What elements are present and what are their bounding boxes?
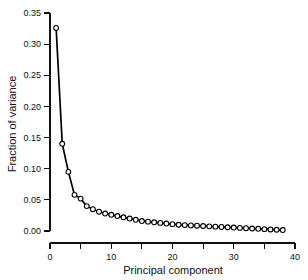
data-point-marker <box>103 211 108 216</box>
x-tick-label: 0 <box>47 252 52 262</box>
data-point-marker <box>274 227 279 232</box>
data-point-marker <box>268 227 273 232</box>
x-tick-label: 20 <box>167 252 177 262</box>
y-tick-group: 0.000.050.100.150.200.250.300.35 <box>23 8 50 236</box>
y-tick-label: 0.25 <box>23 70 41 80</box>
data-point-marker <box>127 216 132 221</box>
data-point-marker <box>121 215 126 220</box>
y-tick-label: 0.05 <box>23 195 41 205</box>
data-point-marker <box>250 226 255 231</box>
data-series-fraction-of-variance <box>54 26 285 233</box>
data-point-marker <box>280 228 285 233</box>
data-point-marker <box>170 222 175 227</box>
y-tick-label: 0.15 <box>23 133 41 143</box>
data-point-marker <box>213 224 218 229</box>
data-point-marker <box>72 192 77 197</box>
data-point-marker <box>146 219 151 224</box>
y-tick-label: 0.35 <box>23 8 41 18</box>
data-point-marker <box>262 227 267 232</box>
data-point-marker <box>115 214 120 219</box>
y-tick-label: 0.20 <box>23 102 41 112</box>
data-point-marker <box>152 220 157 225</box>
data-point-marker <box>60 141 65 146</box>
series-line <box>56 28 283 230</box>
x-tick-label: 10 <box>106 252 116 262</box>
y-tick-label: 0.10 <box>23 164 41 174</box>
series-markers <box>54 26 285 233</box>
x-axis-title: Principal component <box>123 264 223 276</box>
y-tick-label: 0.00 <box>23 226 41 236</box>
data-point-marker <box>207 224 212 229</box>
data-point-marker <box>225 225 230 230</box>
data-point-marker <box>201 224 206 229</box>
data-point-marker <box>195 223 200 228</box>
data-point-marker <box>90 207 95 212</box>
y-axis-title: Fraction of variance <box>6 76 18 173</box>
data-point-marker <box>244 226 249 231</box>
data-point-marker <box>133 217 138 222</box>
data-point-marker <box>176 222 181 227</box>
chart-canvas: Fraction of variance 0.000.050.100.150.2… <box>0 0 308 280</box>
data-point-marker <box>97 209 102 214</box>
data-point-marker <box>109 212 114 217</box>
data-point-marker <box>66 169 71 174</box>
x-axis: 010203040 <box>47 243 300 262</box>
data-point-marker <box>237 225 242 230</box>
data-point-marker <box>219 225 224 230</box>
data-point-marker <box>54 26 59 31</box>
y-axis: 0.000.050.100.150.200.250.300.35 <box>23 8 50 236</box>
data-point-marker <box>256 226 261 231</box>
data-point-marker <box>78 196 83 201</box>
x-tick-label: 40 <box>290 252 300 262</box>
data-point-marker <box>182 223 187 228</box>
data-point-marker <box>158 221 163 226</box>
data-point-marker <box>139 219 144 224</box>
data-point-marker <box>84 204 89 209</box>
data-point-marker <box>188 223 193 228</box>
data-point-marker <box>231 225 236 230</box>
data-point-marker <box>164 221 169 226</box>
x-tick-label: 30 <box>229 252 239 262</box>
scree-plot-figure: Fraction of variance 0.000.050.100.150.2… <box>0 0 308 280</box>
y-tick-label: 0.30 <box>23 39 41 49</box>
x-tick-group: 010203040 <box>47 243 300 262</box>
